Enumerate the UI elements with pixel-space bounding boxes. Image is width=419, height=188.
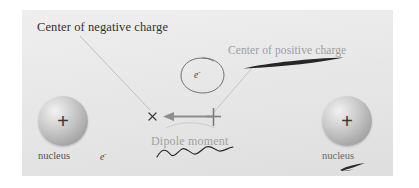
- figure-root: + + Center of negative charge Center of …: [0, 0, 419, 188]
- electron-free-charge: -: [104, 150, 106, 157]
- nucleus-plus-left: +: [38, 96, 88, 146]
- handdrawn-underline-positive: [243, 58, 344, 69]
- nucleus-sphere-right: +: [322, 96, 372, 146]
- label-electron-orbit: e-: [194, 68, 201, 80]
- electron-orbit-path: [181, 58, 224, 93]
- label-electron-free: e-: [100, 150, 107, 162]
- label-nucleus-right: nucleus: [322, 150, 354, 161]
- dipole-moment-arrow: [163, 112, 213, 121]
- handdrawn-mark-right: [340, 163, 365, 171]
- nucleus-sphere-left: +: [38, 96, 88, 146]
- label-dipole-moment: Dipole moment: [151, 134, 229, 149]
- nucleus-plus-right: +: [322, 96, 372, 146]
- label-center-of-positive-charge: Center of positive charge: [228, 44, 346, 56]
- leader-line-positive: [214, 68, 252, 112]
- label-center-of-negative-charge: Center of negative charge: [37, 20, 168, 35]
- negative-charge-marker: [149, 113, 156, 120]
- electron-orbit-charge: -: [198, 68, 200, 75]
- dipole-arc-shadow: [166, 123, 215, 128]
- leader-line-negative: [80, 36, 150, 110]
- label-nucleus-left: nucleus: [38, 150, 70, 161]
